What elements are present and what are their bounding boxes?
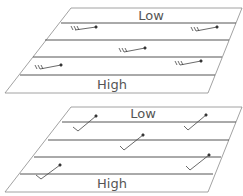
upper-low-label: Low <box>138 8 164 23</box>
lower-low-label: Low <box>130 106 156 121</box>
lower-panel: Low High <box>5 106 242 192</box>
upper-high-label: High <box>97 77 127 92</box>
diagram-canvas: Low High Low High <box>0 0 243 196</box>
lower-high-label: High <box>97 176 127 191</box>
upper-panel: Low High <box>5 8 242 93</box>
